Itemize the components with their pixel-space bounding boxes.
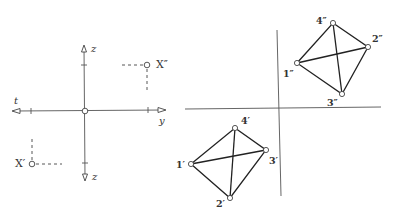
upper-tetrahedron: 4″ 2″ 1″ 3″ [283, 15, 384, 108]
vertex-1-double-prime [294, 60, 299, 65]
label-1-prime: 1′ [176, 159, 186, 170]
projection-vertical-line [277, 30, 281, 196]
vertex-4-prime [232, 125, 237, 130]
label-2-double-prime: 2″ [372, 33, 384, 44]
vertex-2-prime [227, 195, 232, 200]
x-prime-point [29, 161, 35, 167]
origin-point [82, 108, 88, 114]
left-axis-system: t y z z X″ X′ [12, 43, 168, 182]
axis-label-z-bottom: z [91, 171, 98, 182]
axis-label-y: y [158, 115, 165, 126]
right-projection-system: 4″ 2″ 1″ 3″ 4′ 3′ 1′ 2′ [176, 15, 384, 209]
axis-label-z-top: z [90, 43, 97, 54]
vertex-3-double-prime [339, 91, 344, 96]
lower-tetrahedron: 4′ 3′ 1′ 2′ [176, 115, 279, 209]
lower-edge-1-3 [191, 150, 266, 164]
upper-outline [297, 23, 368, 94]
label-4-double-prime: 4″ [316, 15, 328, 26]
label-3-double-prime: 3″ [327, 97, 339, 108]
arrow-up-icon [82, 45, 87, 52]
x-prime-label: X′ [15, 157, 26, 170]
upper-edge-1-2 [297, 47, 368, 63]
label-3-prime: 3′ [269, 155, 279, 166]
arrow-right-icon [158, 108, 166, 113]
projection-horizontal-line [185, 107, 381, 109]
upper-edge-4-3 [333, 23, 342, 94]
lower-outline [191, 128, 266, 198]
x-double-prime-point [144, 62, 150, 68]
arrow-left-icon [12, 109, 20, 114]
projection-diagram: t y z z X″ X′ 4″ 2″ 1″ 3″ [0, 0, 393, 222]
label-2-prime: 2′ [216, 198, 226, 209]
lower-edge-4-2 [230, 128, 235, 198]
arrow-down-icon [83, 174, 88, 181]
vertex-4-double-prime [330, 20, 335, 25]
label-4-prime: 4′ [241, 115, 251, 126]
axis-label-t: t [14, 95, 19, 106]
vertex-1-prime [188, 161, 193, 166]
x-double-prime-label: X″ [156, 58, 168, 71]
vertex-3-prime [263, 147, 268, 152]
vertex-2-double-prime [365, 44, 370, 49]
label-1-double-prime: 1″ [283, 68, 295, 79]
horizontal-axis [14, 110, 164, 111]
